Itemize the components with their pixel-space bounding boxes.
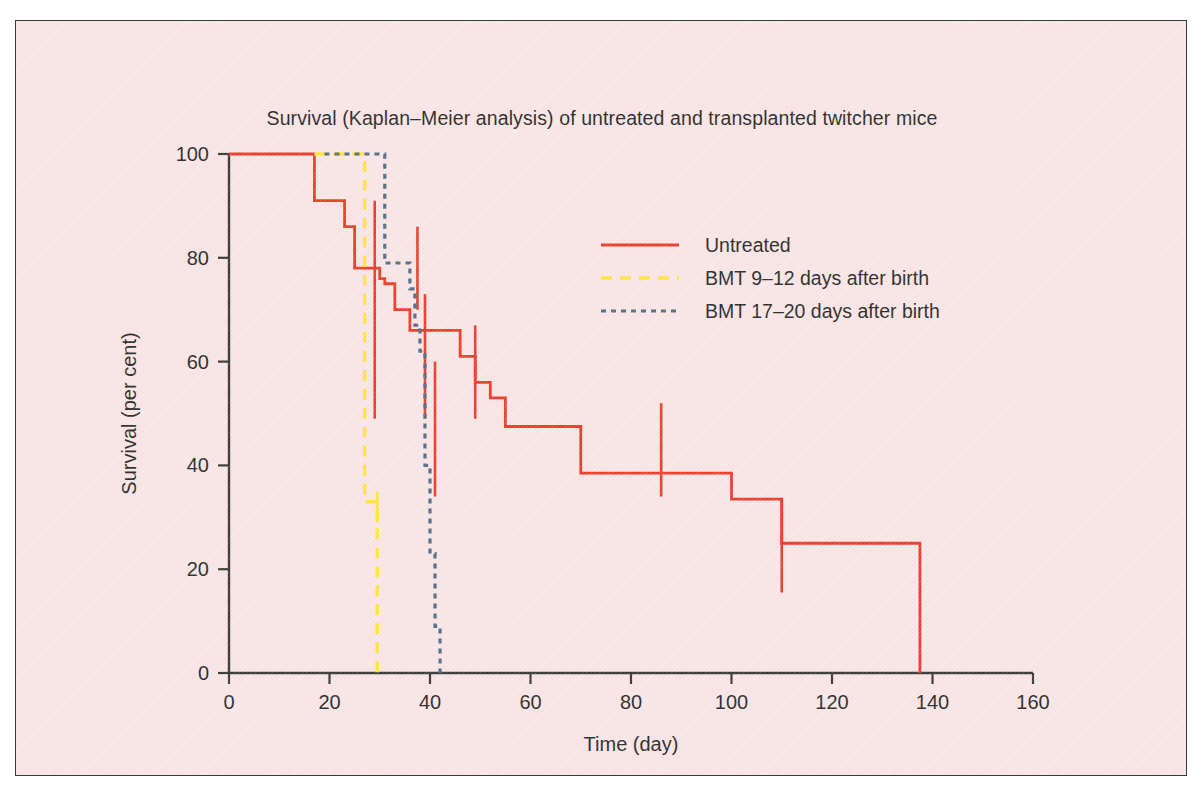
y-tick-label: 20 [187, 558, 209, 580]
x-tick-label: 0 [223, 691, 234, 713]
legend-label-2: BMT 17–20 days after birth [705, 300, 940, 322]
x-tick-label: 60 [519, 691, 541, 713]
series-line-0 [229, 154, 920, 673]
series-line-1 [314, 154, 377, 673]
x-tick-label: 160 [1016, 691, 1049, 713]
axes-group: 020406080100120140160020406080100Time (d… [118, 143, 1050, 755]
x-axis-title: Time (day) [584, 733, 679, 755]
x-tick-label: 80 [620, 691, 642, 713]
series-group [229, 154, 920, 673]
series-line-2 [324, 154, 440, 673]
x-tick-label: 100 [715, 691, 748, 713]
legend-label-0: Untreated [705, 234, 791, 256]
figure-panel: Survival (Kaplan–Meier analysis) of untr… [15, 20, 1187, 776]
y-tick-label: 0 [198, 662, 209, 684]
y-tick-label: 40 [187, 454, 209, 476]
x-tick-label: 40 [419, 691, 441, 713]
chart-plot-area: 020406080100120140160020406080100Time (d… [16, 21, 1187, 776]
legend-group: UntreatedBMT 9–12 days after birthBMT 17… [601, 234, 940, 322]
x-tick-label: 20 [318, 691, 340, 713]
x-tick-label: 120 [815, 691, 848, 713]
y-tick-label: 80 [187, 247, 209, 269]
x-tick-label: 140 [916, 691, 949, 713]
y-tick-label: 60 [187, 351, 209, 373]
y-axis-title: Survival (per cent) [118, 332, 140, 494]
y-tick-label: 100 [176, 143, 209, 165]
legend-label-1: BMT 9–12 days after birth [705, 267, 929, 289]
